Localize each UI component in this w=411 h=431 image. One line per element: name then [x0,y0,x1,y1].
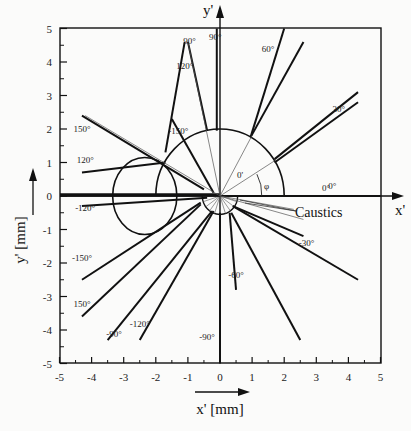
x-axis-label: x' [mm] [196,401,243,417]
x-tick-label: 1 [249,371,255,383]
ray-label: -90° [199,332,215,342]
ray-label: -90° [106,329,122,339]
construction-line [85,116,220,196]
y-tick-label: -1 [43,224,52,236]
ray-label: 150° [73,299,91,309]
phi-arc [257,174,262,196]
ray-label: -30° [299,238,315,248]
y-axis-arrowhead-icon [216,5,224,18]
x-tick-label: 5 [378,371,384,383]
x-tick-label: -1 [183,371,192,383]
ray-line [140,211,214,340]
ray-line [275,92,358,159]
y-tick-label: -4 [43,324,53,336]
y-tick-label: 4 [47,56,53,68]
x-tick-label: 3 [314,371,320,383]
caustic-spoke [206,196,220,207]
caustic-spoke [215,196,220,214]
y-tick-label: -3 [43,291,53,303]
ray-label: -60° [228,270,244,280]
caustic-spoke [220,196,225,214]
y-tick-label: -2 [43,257,52,269]
caustic-spoke [210,196,220,211]
x-tick-label: -3 [119,371,129,383]
ray-label: 30° [332,104,345,114]
ray-label: -150° [72,253,92,263]
ray-label: -120° [75,203,95,213]
y-axis-arrow-label: y' [203,2,214,18]
ray-label: 120° [77,155,95,165]
ray-label: -120° [130,319,150,329]
construction-line [220,196,294,209]
ray-label: 90° [183,36,196,46]
y-label-arrow-icon [29,168,37,181]
ray-line [82,163,165,173]
y-tick-label: 2 [47,123,53,135]
x-tick-label: -4 [87,371,97,383]
x-tick-label: 0 [217,371,223,383]
caustics-label: Caustics [295,205,342,220]
x-tick-label: 2 [281,371,287,383]
x-tick-label: 4 [346,371,352,383]
construction-line [220,135,252,196]
x-tick-label: -2 [151,371,160,383]
ray-line [82,198,207,206]
chart: -5-4-3-2-1012345 543210-1-2-3-4-5 x'y'x'… [0,0,411,431]
zero-prime-label: 0' [237,170,244,180]
x-axis-arrow-label: x' [395,202,406,218]
ray-line [275,102,358,162]
ray-label: 90° [209,32,222,42]
y-tick-label: -5 [43,358,53,370]
y-axis-label: y' [mm] [12,216,28,263]
ray-label: 60° [262,44,275,54]
caustics-leader-line [245,203,296,211]
ray-label: 150° [73,124,91,134]
ray-line [82,203,201,280]
phi-label: φ [264,181,269,191]
x-label-arrow-icon [238,388,250,396]
ray-label: -150° [168,126,188,136]
y-tick-label: 1 [47,157,53,169]
x-tick-label: -5 [55,371,65,383]
zero-deg-label: 0° [322,183,331,193]
ray-label: 120° [176,61,194,71]
x-axis-arrowhead-icon [392,192,404,200]
y-tick-label: 3 [47,90,53,102]
y-tick-label: 5 [47,23,53,35]
ray-line [250,42,303,137]
y-tick-label: 0 [47,190,53,202]
